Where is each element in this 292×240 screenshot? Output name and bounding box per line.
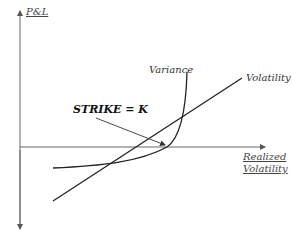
x-axis-label-line1: Realized [243,151,288,163]
y-axis-label: P&L [26,6,48,17]
variance-label: Variance [149,64,193,75]
payoff-diagram [0,0,292,240]
strike-label: STRIKE = K [73,103,148,116]
x-axis-label-line2: Volatility [243,163,288,175]
x-axis-label: Realized Volatility [243,151,288,175]
volatility-label: Volatility [246,72,291,83]
volatility-line [53,78,242,201]
strike-arrow [96,118,165,145]
variance-curve [53,72,187,168]
